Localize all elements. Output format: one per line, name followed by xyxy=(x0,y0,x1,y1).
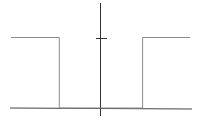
step-function-plot xyxy=(0,0,200,120)
